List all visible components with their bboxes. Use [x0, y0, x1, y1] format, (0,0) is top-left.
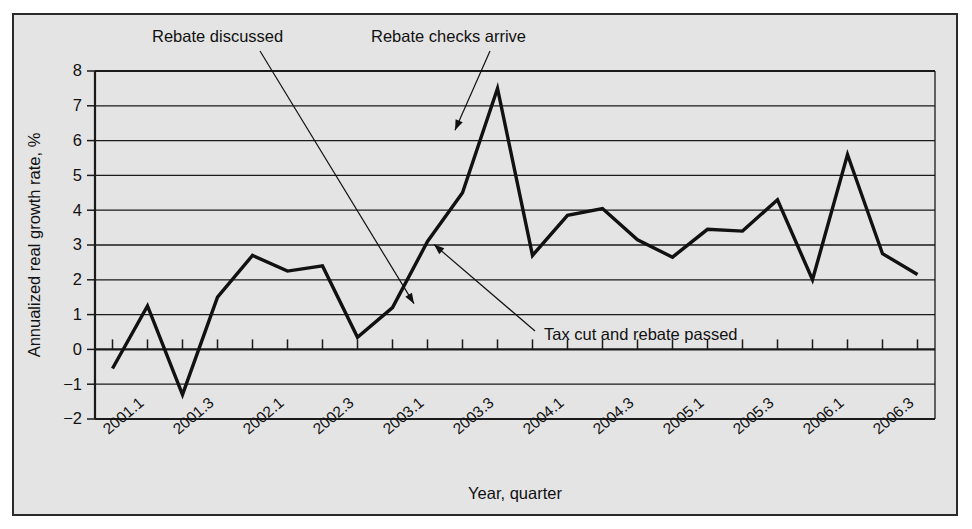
x-tick-label-2004.3: 2004.3	[590, 394, 637, 438]
y-tick-label--1: −1	[63, 375, 82, 393]
y-axis-title: Annualized real growth rate, %	[25, 132, 43, 357]
x-axis-title: Year, quarter	[468, 484, 562, 502]
x-tick-label-2001.1: 2001.1	[100, 394, 147, 438]
plot-area: 876543210−1−2 2001.12001.32002.12002.320…	[14, 15, 956, 514]
annotation-rebate-checks-arrive-arrowhead	[455, 119, 463, 130]
growth-rate-line-chart: 876543210−1−2 2001.12001.32002.12002.320…	[14, 15, 956, 514]
x-tick-label-2005.1: 2005.1	[660, 394, 707, 438]
figure-frame: 876543210−1−2 2001.12001.32002.12002.320…	[12, 13, 958, 516]
x-tick-label-2004.1: 2004.1	[520, 394, 567, 438]
y-tick-labels-group: 876543210−1−2	[63, 61, 82, 427]
y-tick-label-5: 5	[73, 166, 82, 184]
y-tick-label-1: 1	[73, 305, 82, 323]
gridlines-group	[95, 71, 935, 419]
annotation-label-rebate-checks-arrive: Rebate checks arrive	[371, 27, 526, 45]
y-tick-label-2: 2	[73, 270, 82, 288]
annotation-rebate-checks-arrive-leader	[455, 51, 490, 130]
annotation-tax-cut-and-rebate-passed-leader	[434, 245, 535, 331]
x-tick-label-2006.1: 2006.1	[800, 394, 847, 438]
x-tick-label-2001.3: 2001.3	[170, 394, 217, 438]
y-tick-label-4: 4	[73, 201, 82, 219]
annotations-group: Rebate discussedRebate checks arriveTax …	[152, 27, 738, 343]
x-tick-marks-group	[113, 339, 918, 349]
top-cut-text-sliver	[0, 0, 972, 11]
x-tick-label-2002.1: 2002.1	[240, 394, 287, 438]
y-tick-label-8: 8	[73, 61, 82, 79]
y-tick-label--2: −2	[63, 409, 82, 427]
x-tick-label-2003.1: 2003.1	[380, 394, 427, 438]
annotation-rebate-discussed-leader	[260, 51, 414, 304]
annotation-label-tax-cut-and-rebate-passed: Tax cut and rebate passed	[544, 325, 738, 343]
y-tick-label-7: 7	[73, 96, 82, 114]
x-tick-labels-group: 2001.12001.32002.12002.32003.12003.32004…	[100, 394, 917, 438]
x-tick-label-2002.3: 2002.3	[310, 394, 357, 438]
x-tick-label-2006.3: 2006.3	[870, 394, 917, 438]
annotation-label-rebate-discussed: Rebate discussed	[152, 27, 283, 45]
y-tick-label-0: 0	[73, 340, 82, 358]
y-tick-label-3: 3	[73, 235, 82, 253]
y-tick-label-6: 6	[73, 131, 82, 149]
x-tick-label-2003.3: 2003.3	[450, 394, 497, 438]
y-tick-marks-group	[87, 71, 95, 419]
axis-titles-group: Year, quarterAnnualized real growth rate…	[25, 132, 562, 502]
annotation-rebate-discussed-arrowhead	[405, 293, 414, 304]
x-tick-label-2005.3: 2005.3	[730, 394, 777, 438]
